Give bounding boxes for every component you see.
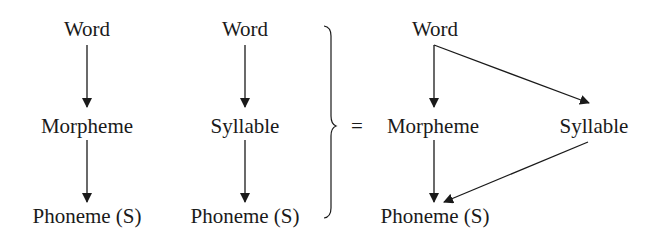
- left-phoneme-node: Phoneme (S): [32, 206, 141, 227]
- arrow-word-to-syllable-right: [434, 45, 589, 103]
- right-phoneme-node: Phoneme (S): [380, 206, 489, 227]
- center-word-node: Word: [222, 19, 268, 40]
- arrow-syllable-to-phoneme-right: [444, 142, 588, 202]
- right-syllable-node: Syllable: [560, 116, 629, 137]
- right-word-node: Word: [412, 19, 458, 40]
- right-brace: [324, 26, 336, 218]
- right-morpheme-node: Morpheme: [387, 116, 479, 137]
- equals-sign: =: [351, 116, 363, 137]
- center-phoneme-node: Phoneme (S): [190, 206, 299, 227]
- left-morpheme-node: Morpheme: [41, 116, 133, 137]
- center-syllable-node: Syllable: [211, 116, 280, 137]
- left-word-node: Word: [64, 19, 110, 40]
